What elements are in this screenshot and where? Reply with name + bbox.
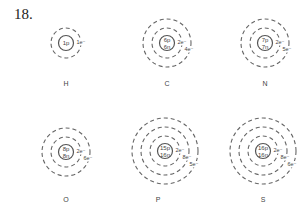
nucleus-protons: 7p xyxy=(262,37,269,43)
nucleus-neutrons: 16n xyxy=(258,152,268,158)
element-symbol: H xyxy=(63,80,68,87)
atom-o: 8p8n2e⁻6e⁻O xyxy=(42,128,93,203)
nucleus-neutrons: 6n xyxy=(164,44,171,50)
shell-1-electrons: 1e⁻ xyxy=(77,39,86,45)
element-symbol: N xyxy=(262,80,267,87)
atom-p: 15p16n2e⁻8e⁻5e⁻P xyxy=(132,118,199,203)
element-symbol: O xyxy=(63,196,69,203)
nucleus-protons: 15p xyxy=(160,145,171,151)
atom-s: 16p16n2e⁻8e⁻6e⁻S xyxy=(230,118,297,203)
nucleus-neutrons: 16n xyxy=(160,152,170,158)
shell-2-electrons: 4e⁻ xyxy=(185,46,194,52)
nucleus-protons: 1p xyxy=(63,40,70,46)
shell-2-electrons: 8e⁻ xyxy=(281,154,290,160)
shell-1-electrons: 2e⁻ xyxy=(276,39,285,45)
shell-1-electrons: 2e⁻ xyxy=(77,148,86,154)
nucleus-neutrons: 8n xyxy=(63,153,70,159)
atom-n: 7p7n2e⁻5e⁻N xyxy=(241,19,292,87)
shell-3-electrons: 6e⁻ xyxy=(288,161,297,167)
shell-1-electrons: 2e⁻ xyxy=(274,147,283,153)
nucleus-protons: 8p xyxy=(63,146,70,152)
shell-2-electrons: 6e⁻ xyxy=(84,155,93,161)
element-symbol: C xyxy=(164,80,169,87)
element-symbol: S xyxy=(261,196,266,203)
nucleus-protons: 6p xyxy=(164,37,171,43)
shell-2-electrons: 8e⁻ xyxy=(183,154,192,160)
nucleus-protons: 16p xyxy=(258,145,269,151)
shell-2-electrons: 5e⁻ xyxy=(283,46,292,52)
element-symbol: P xyxy=(156,196,161,203)
shell-1-electrons: 2e⁻ xyxy=(178,39,187,45)
bohr-models-diagram: 1p1e⁻H6p6n2e⁻4e⁻C7p7n2e⁻5e⁻N8p8n2e⁻6e⁻O1… xyxy=(0,0,308,214)
shell-1-electrons: 2e⁻ xyxy=(176,147,185,153)
nucleus-neutrons: 7n xyxy=(262,44,269,50)
shell-3-electrons: 5e⁻ xyxy=(190,161,199,167)
atom-c: 6p6n2e⁻4e⁻C xyxy=(143,19,194,87)
atom-h: 1p1e⁻H xyxy=(51,28,86,87)
